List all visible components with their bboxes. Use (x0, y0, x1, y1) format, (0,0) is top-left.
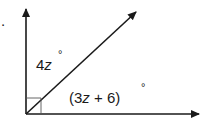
problem-marker: . (1, 12, 5, 29)
angle-label-upper: 4z (36, 56, 52, 73)
angle-diagram: . 4z ° (3z + 6) ° (0, 0, 203, 136)
degree-symbol-lower: ° (141, 81, 145, 93)
degree-symbol-upper: ° (58, 48, 62, 60)
angle-label-lower: (3z + 6) (69, 89, 120, 106)
